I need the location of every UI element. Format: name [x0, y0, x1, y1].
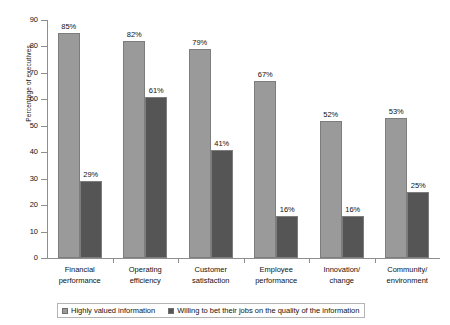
y-axis-tick-label: 30 — [0, 174, 38, 183]
legend-swatch-icon — [62, 308, 68, 314]
legend-item-1[interactable]: Willing to bet their jobs on the quality… — [168, 306, 359, 315]
bar-1-3[interactable]: 16% — [276, 216, 298, 258]
category-label-line: change — [309, 276, 375, 287]
bar-1-5[interactable]: 25% — [407, 192, 429, 258]
y-axis-tick-label: 90 — [0, 15, 38, 24]
bar-0-3[interactable]: 67% — [254, 81, 276, 258]
x-axis-category-label: Employeeperformance — [244, 265, 310, 286]
legend-label: Willing to bet their jobs on the quality… — [177, 306, 359, 315]
x-axis-tick — [178, 258, 179, 263]
bar-value-label: 79% — [191, 38, 208, 47]
bar-1-2[interactable]: 41% — [211, 150, 233, 258]
x-axis-category-label: Innovation/change — [309, 265, 375, 286]
legend-swatch-icon — [168, 308, 174, 314]
y-axis-tick-label: 70 — [0, 68, 38, 77]
bar-chart: Percentage of executives 010203040506070… — [0, 0, 450, 325]
category-label-line: environment — [375, 276, 441, 287]
category-label-line: Customer — [178, 265, 244, 276]
category-label-line: satisfaction — [178, 276, 244, 287]
bar-1-0[interactable]: 29% — [80, 181, 102, 258]
category-label-line: Innovation/ — [309, 265, 375, 276]
y-axis-tick-label: 40 — [0, 147, 38, 156]
x-axis-tick — [309, 258, 310, 263]
bar-value-label: 82% — [126, 30, 143, 39]
x-axis-category-label: Customersatisfaction — [178, 265, 244, 286]
chart-legend: Highly valued information Willing to bet… — [57, 303, 365, 318]
bar-value-label: 41% — [213, 139, 230, 148]
x-axis-tick — [375, 258, 376, 263]
y-axis-tick-label: 10 — [0, 227, 38, 236]
bar-value-label: 85% — [60, 22, 77, 31]
bar-value-label: 61% — [148, 86, 165, 95]
bar-value-label: 67% — [257, 70, 274, 79]
x-axis-tick — [113, 258, 114, 263]
category-label-line: performance — [47, 276, 113, 287]
category-label-line: performance — [244, 276, 310, 287]
y-axis-line — [47, 20, 48, 259]
bar-group: 53%25% — [385, 20, 429, 258]
y-axis-tick-label: 60 — [0, 94, 38, 103]
category-label-line: efficiency — [113, 276, 179, 287]
y-axis-tick-label: 80 — [0, 41, 38, 50]
bar-0-5[interactable]: 53% — [385, 118, 407, 258]
x-axis-category-label: Operatingefficiency — [113, 265, 179, 286]
x-axis-category-label: Community/environment — [375, 265, 441, 286]
category-label-line: Financial — [47, 265, 113, 276]
x-axis-tick — [244, 258, 245, 263]
bar-group: 67%16% — [254, 20, 298, 258]
y-axis-tick-label: 0 — [0, 253, 38, 262]
legend-label: Highly valued information — [71, 306, 155, 315]
y-axis-tick-label: 50 — [0, 121, 38, 130]
bar-0-2[interactable]: 79% — [189, 49, 211, 258]
bar-0-1[interactable]: 82% — [123, 41, 145, 258]
bar-1-1[interactable]: 61% — [145, 97, 167, 258]
bar-value-label: 25% — [410, 181, 427, 190]
bar-0-0[interactable]: 85% — [58, 33, 80, 258]
y-axis-tick-label: 20 — [0, 200, 38, 209]
bar-0-4[interactable]: 52% — [320, 121, 342, 259]
legend-item-0[interactable]: Highly valued information — [62, 306, 155, 315]
category-label-line: Community/ — [375, 265, 441, 276]
bar-group: 79%41% — [189, 20, 233, 258]
bar-value-label: 53% — [388, 107, 405, 116]
bar-value-label: 29% — [82, 170, 99, 179]
bar-1-4[interactable]: 16% — [342, 216, 364, 258]
category-label-line: Employee — [244, 265, 310, 276]
category-label-line: Operating — [113, 265, 179, 276]
bar-group: 85%29% — [58, 20, 102, 258]
bar-value-label: 52% — [322, 110, 339, 119]
bar-group: 52%16% — [320, 20, 364, 258]
bar-value-label: 16% — [344, 205, 361, 214]
bar-group: 82%61% — [123, 20, 167, 258]
x-axis-category-label: Financialperformance — [47, 265, 113, 286]
bar-value-label: 16% — [279, 205, 296, 214]
